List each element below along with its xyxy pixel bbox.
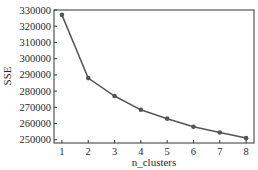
y-tick-label: 290000 [20,69,52,80]
data-point-marker [86,76,91,81]
y-tick-label: 330000 [20,5,52,16]
y-axis-ticks: 2500002600002700002800002900003000003100… [20,5,58,146]
elbow-chart: 2500002600002700002800002900003000003100… [0,0,258,170]
data-point-marker [191,124,196,129]
y-tick-label: 270000 [20,102,52,113]
x-tick-label: 1 [59,146,64,157]
data-point-marker [217,130,222,135]
y-tick-label: 250000 [20,134,52,145]
y-tick-label: 300000 [20,53,52,64]
x-tick-label: 8 [243,146,248,157]
data-point-marker [244,136,249,141]
data-point-marker [139,107,144,112]
x-tick-label: 7 [217,146,222,157]
x-tick-label: 6 [191,146,196,157]
data-point-marker [60,13,65,18]
x-tick-label: 2 [86,146,91,157]
x-axis-label: n_clusters [132,156,177,168]
y-tick-label: 320000 [20,21,52,32]
data-point-marker [112,94,117,99]
plot-frame [54,10,254,143]
sse-line-series [60,13,249,141]
y-tick-label: 260000 [20,118,52,129]
y-tick-label: 310000 [20,37,52,48]
y-tick-label: 280000 [20,86,52,97]
y-axis-label: SSE [1,66,13,85]
x-tick-label: 3 [112,146,117,157]
data-point-marker [165,116,170,121]
